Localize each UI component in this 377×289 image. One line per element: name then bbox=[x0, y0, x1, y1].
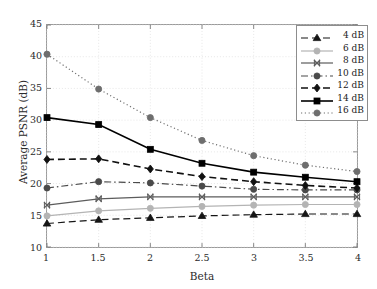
x-tick-label: 2 bbox=[147, 253, 153, 263]
legend-item-label: 4 dB bbox=[334, 30, 364, 40]
data-point-marker bbox=[314, 73, 320, 79]
legend-item-label: 10 dB bbox=[334, 68, 364, 78]
legend-item-label: 8 dB bbox=[334, 55, 364, 65]
data-point-marker bbox=[314, 48, 320, 54]
legend-item-label: 16 dB bbox=[334, 105, 364, 115]
legend-line-sample bbox=[300, 92, 334, 104]
legend-item-label: 14 dB bbox=[334, 93, 364, 103]
chart-legend: 4 dB6 dB8 dB10 dB12 dB14 dB16 dB bbox=[296, 25, 368, 121]
data-point-marker bbox=[314, 110, 320, 116]
legend-line-sample bbox=[300, 29, 334, 41]
x-axis-title: Beta bbox=[46, 270, 358, 282]
legend-item-16-db[interactable]: 16 dB bbox=[300, 104, 364, 117]
x-tick-label: 3 bbox=[251, 253, 257, 263]
legend-item-6-db[interactable]: 6 dB bbox=[300, 42, 364, 55]
legend-item-label: 12 dB bbox=[334, 80, 364, 90]
legend-item-4-db[interactable]: 4 dB bbox=[300, 29, 364, 42]
legend-item-12-db[interactable]: 12 dB bbox=[300, 79, 364, 92]
legend-line-sample bbox=[300, 54, 334, 66]
legend-item-label: 6 dB bbox=[334, 43, 364, 53]
data-point-marker bbox=[314, 60, 320, 67]
legend-line-sample bbox=[300, 42, 334, 54]
data-point-marker bbox=[314, 98, 320, 104]
legend-line-sample bbox=[300, 67, 334, 79]
legend-item-14-db[interactable]: 14 dB bbox=[300, 92, 364, 105]
x-tick-label: 1 bbox=[43, 253, 49, 263]
chart-figure: 1015202530354045 11.522.533.54 Beta Aver… bbox=[0, 0, 377, 289]
x-tick-label: 2.5 bbox=[194, 253, 209, 263]
legend-item-8-db[interactable]: 8 dB bbox=[300, 54, 364, 67]
x-tick-label: 4 bbox=[355, 253, 361, 263]
legend-line-sample bbox=[300, 104, 334, 116]
x-tick-label: 3.5 bbox=[298, 253, 313, 263]
x-tick-label: 1.5 bbox=[90, 253, 105, 263]
y-axis-title: Average PSNR (dB) bbox=[17, 62, 29, 202]
legend-item-10-db[interactable]: 10 dB bbox=[300, 67, 364, 80]
legend-line-sample bbox=[300, 79, 334, 91]
